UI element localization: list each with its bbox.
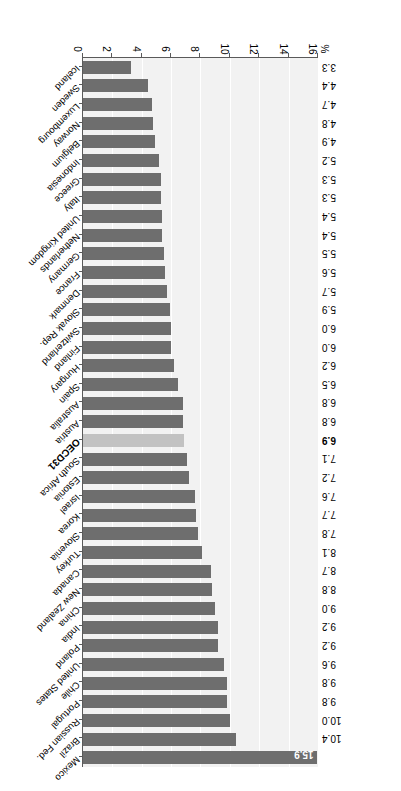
bar-row[interactable]: 7.7Korea (83, 506, 318, 525)
bar-row[interactable]: 8.7Canada (83, 562, 318, 581)
bar-row[interactable]: 4.4Sweden (83, 77, 318, 96)
bar[interactable] (83, 247, 164, 260)
bar[interactable] (83, 359, 174, 372)
category-tick (79, 383, 83, 384)
bar[interactable] (83, 658, 224, 671)
bar[interactable] (83, 490, 195, 503)
bar-row[interactable]: 15.9Mexico (83, 748, 318, 767)
bar[interactable] (83, 135, 155, 148)
bar-row[interactable]: 3.3Iceland (83, 58, 318, 77)
bar[interactable] (83, 695, 227, 708)
bar[interactable] (83, 434, 184, 447)
bar-row[interactable]: 9.6United States (83, 655, 318, 674)
bar-row[interactable]: 5.9Slovak Rep. (83, 301, 318, 320)
bar[interactable] (83, 714, 230, 727)
bar-row[interactable]: 5.4United Kingdom (83, 207, 318, 226)
bar-row[interactable]: 4.7Luxembourg (83, 95, 318, 114)
category-tick (79, 215, 83, 216)
bar[interactable] (83, 733, 236, 746)
bar-row[interactable]: 5.6France (83, 263, 318, 282)
bar-value-label: 8.8 (322, 582, 336, 597)
category-tick (79, 588, 83, 589)
bar-row[interactable]: 9.0China (83, 599, 318, 618)
bar[interactable] (83, 285, 167, 298)
bar-row[interactable]: 6.0Finland (83, 338, 318, 357)
bar[interactable] (83, 191, 161, 204)
bar[interactable] (83, 98, 152, 111)
bar-chart-figure: 15.9Mexico10.4Brazil10.0Russian Fed.9.8P… (0, 0, 401, 791)
bar[interactable] (83, 322, 171, 335)
bar[interactable] (83, 602, 215, 615)
bar-row[interactable]: 5.3Italy (83, 189, 318, 208)
bar[interactable] (83, 397, 183, 410)
bar[interactable] (83, 415, 183, 428)
bar[interactable] (83, 378, 178, 391)
bar-value-label: 8.7 (322, 563, 336, 578)
bar[interactable] (83, 303, 170, 316)
category-tick (79, 103, 83, 104)
category-tick (79, 457, 83, 458)
bar-row[interactable]: 7.1South Africa (83, 450, 318, 469)
bar[interactable] (83, 471, 189, 484)
bar[interactable] (83, 61, 131, 74)
bar-row[interactable]: 6.8Austria (83, 413, 318, 432)
bar[interactable] (83, 546, 202, 559)
bar[interactable] (83, 583, 212, 596)
bar-row[interactable]: 7.2Estonia (83, 468, 318, 487)
bar[interactable]: 15.9 (83, 751, 317, 764)
bar-row[interactable]: 6.8Australia (83, 394, 318, 413)
bar[interactable] (83, 509, 196, 522)
category-tick (79, 700, 83, 701)
category-tick (79, 402, 83, 403)
bar-row[interactable]: 10.0Russian Fed. (83, 711, 318, 730)
category-tick (79, 420, 83, 421)
axis-tick-label: 0 (72, 38, 83, 60)
bar-row[interactable]: 4.9Belgium (83, 133, 318, 152)
bar[interactable] (83, 565, 211, 578)
category-tick (79, 290, 83, 291)
category-tick (79, 532, 83, 533)
bar-row[interactable]: 5.7Denmark (83, 282, 318, 301)
category-tick (79, 140, 83, 141)
bar[interactable] (83, 341, 171, 354)
bar-row[interactable]: 5.3Greece (83, 170, 318, 189)
category-tick (79, 327, 83, 328)
bar-value-label: 7.6 (322, 489, 336, 504)
bar-row[interactable]: 9.2India (83, 618, 318, 637)
category-tick (79, 252, 83, 253)
bar-row[interactable]: 8.8New Zealand (83, 580, 318, 599)
bar[interactable] (83, 173, 161, 186)
bar-row[interactable]: 6.2Hungary (83, 357, 318, 376)
bar-row[interactable]: 6.0Switzerland (83, 319, 318, 338)
bar-value-label: 4.7 (322, 97, 336, 112)
bar-row[interactable]: 5.4Netherlands (83, 226, 318, 245)
bar-value-label: 6.0 (322, 340, 336, 355)
bar[interactable] (83, 210, 162, 223)
bar[interactable] (83, 527, 198, 540)
bar-row[interactable]: 4.8Norway (83, 114, 318, 133)
bar-row[interactable]: 9.2Poland (83, 636, 318, 655)
axis-tick-label: 2 (101, 38, 112, 60)
bar-row[interactable]: 5.5Germany (83, 245, 318, 264)
bar[interactable] (83, 266, 165, 279)
bar-row[interactable]: 6.9OECD31 (83, 431, 318, 450)
axis-tick-label: 14 (278, 38, 289, 60)
bar[interactable] (83, 117, 154, 130)
bar[interactable] (83, 677, 227, 690)
bar[interactable] (83, 154, 159, 167)
bar[interactable] (83, 453, 187, 466)
bar-row[interactable]: 10.4Brazil (83, 730, 318, 749)
bar-value-label: 15.9 (294, 747, 313, 762)
bar-row[interactable]: 9.8Chile (83, 674, 318, 693)
bar-row[interactable]: 6.5Spain (83, 375, 318, 394)
bar[interactable] (83, 639, 218, 652)
bar[interactable] (83, 229, 162, 242)
bar-row[interactable]: 5.2Indonesia (83, 151, 318, 170)
bar-row[interactable]: 7.6Israel (83, 487, 318, 506)
bar[interactable] (83, 80, 148, 93)
bar[interactable] (83, 621, 218, 634)
bar-row[interactable]: 9.8Portugal (83, 692, 318, 711)
category-tick (79, 346, 83, 347)
bar-row[interactable]: 7.8Slovenia (83, 524, 318, 543)
bar-row[interactable]: 8.1Turkey (83, 543, 318, 562)
